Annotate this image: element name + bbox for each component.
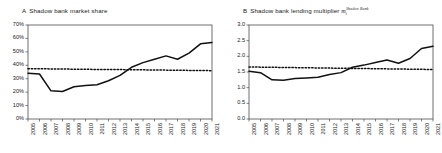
panel-b-x-axis-labels: 2005200620072008200920102011201220132014… [221,119,442,153]
x-tick-label: 2015 [366,123,372,135]
y-tick-label: 1.0 [237,84,245,90]
x-tick-label: 2015 [145,123,151,135]
x-tick-label: 2016 [157,123,163,135]
x-tick-label: 2011 [320,123,326,135]
y-tick-label: 60% [13,34,24,40]
x-tick-label: 2021 [214,123,220,135]
y-tick-label: 50% [13,48,24,54]
panel-b-plot: 0.00.51.01.52.02.53.0 200520062007200820… [221,0,442,153]
y-tick-label: 2.0 [237,52,245,58]
x-tick-label: 2013 [122,123,128,135]
panel-a-x-axis-labels: 2005200620072008200920102011201220132014… [0,119,221,153]
x-tick-label: 2009 [76,123,82,135]
x-tick-label: 2018 [401,123,407,135]
panel-a-plot: 0%10%20%30%40%50%60%70% 2005200620072008… [0,0,221,153]
plot-frame [28,25,212,119]
x-tick-label: 2019 [191,123,197,135]
x-tick-label: 2005 [30,123,36,135]
x-tick-label: 2017 [168,123,174,135]
y-tick-label: 3.0 [237,21,245,27]
x-tick-label: 2008 [65,123,71,135]
figure-two-panel-charts: AShadow bank market share 0%10%20%30%40%… [0,0,442,153]
panel-b: BShadow bank lending multiplier mtShadow… [221,0,442,153]
x-tick-label: 2016 [378,123,384,135]
data-line-series [249,46,433,80]
x-tick-label: 2014 [134,123,140,135]
x-tick-label: 2013 [343,123,349,135]
y-tick-label: 20% [13,88,24,94]
x-tick-label: 2009 [297,123,303,135]
x-tick-label: 2005 [251,123,257,135]
x-tick-label: 2007 [53,123,59,135]
x-tick-label: 2012 [111,123,117,135]
x-tick-label: 2006 [42,123,48,135]
x-tick-label: 2011 [99,123,105,135]
x-tick-label: 2010 [309,123,315,135]
y-tick-label: 70% [13,21,24,27]
data-line-series [28,42,212,91]
x-tick-label: 2014 [355,123,361,135]
x-tick-label: 2007 [274,123,280,135]
x-tick-label: 2020 [424,123,430,135]
x-tick-label: 2008 [286,123,292,135]
panel-b-y-axis-labels: 0.00.51.01.52.02.53.0 [221,24,247,120]
y-tick-label: 30% [13,75,24,81]
y-tick-label: 2.5 [237,37,245,43]
panel-a: AShadow bank market share 0%10%20%30%40%… [0,0,221,153]
x-tick-label: 2019 [412,123,418,135]
x-tick-label: 2020 [203,123,209,135]
reference-line-series [28,69,212,71]
x-tick-label: 2018 [180,123,186,135]
x-tick-label: 2012 [332,123,338,135]
x-tick-label: 2021 [435,123,441,135]
x-tick-label: 2010 [88,123,94,135]
panel-a-y-axis-labels: 0%10%20%30%40%50%60%70% [0,24,26,120]
y-tick-label: 1.5 [237,68,245,74]
reference-line-series [249,67,433,70]
x-tick-label: 2006 [263,123,269,135]
y-tick-label: 40% [13,61,24,67]
y-tick-label: 10% [13,102,24,108]
y-tick-label: 0.5 [237,99,245,105]
x-tick-label: 2017 [389,123,395,135]
